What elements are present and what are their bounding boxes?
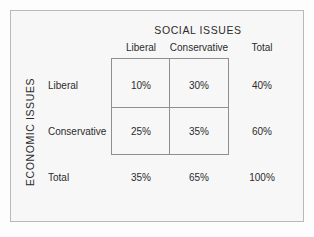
cell-total-conservative: 65% [189,173,209,183]
column-header-total: Total [251,43,272,53]
row-header-liberal: Liberal [48,81,78,91]
cell-liberal-total: 40% [252,81,272,91]
column-group-title: SOCIAL ISSUES [154,25,241,36]
cell-total-total: 100% [249,173,275,183]
matrix-horizontal-divider [111,107,229,108]
cell-conservative-total: 60% [252,127,272,137]
cell-liberal-conservative: 30% [189,81,209,91]
row-header-conservative: Conservative [48,127,106,137]
cell-liberal-liberal: 10% [131,81,151,91]
column-header-liberal: Liberal [126,43,156,53]
row-group-title: ECONOMIC ISSUES [25,78,36,186]
cell-conservative-conservative: 35% [189,127,209,137]
cell-total-liberal: 35% [131,173,151,183]
cell-conservative-liberal: 25% [131,127,151,137]
column-header-conservative: Conservative [170,43,228,53]
figure-root: SOCIAL ISSUES Liberal Conservative Total… [0,0,314,237]
row-header-total: Total [48,173,69,183]
